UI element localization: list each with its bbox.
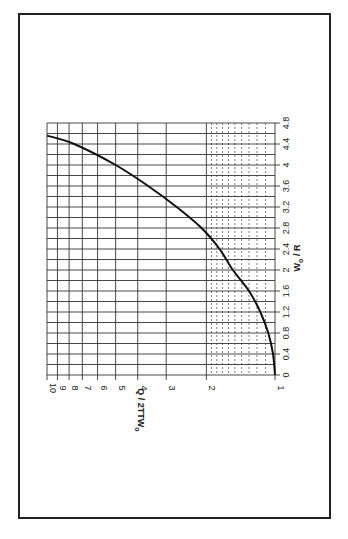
chart: 00.40.81.21.622.42.83.23.644.44.81234567… [0, 0, 348, 539]
grid [47, 123, 275, 375]
x-tick-label: 2.8 [281, 222, 291, 235]
y-tick-label: 9 [58, 385, 68, 390]
x-tick-label: 2.4 [281, 243, 291, 256]
x-tick-label: 0.4 [281, 348, 291, 361]
x-tick-label: 0 [281, 372, 291, 377]
y-tick-label: 10 [48, 383, 58, 393]
x-tick-label: 4 [281, 162, 291, 167]
series-curve [47, 136, 275, 375]
x-tick-label: 4.4 [281, 138, 291, 151]
ticks: 00.40.81.21.622.42.83.23.644.44.81234567… [47, 117, 291, 393]
y-tick-label: 5 [117, 385, 127, 390]
y-tick-label: 7 [83, 385, 93, 390]
curve-layer [47, 136, 275, 375]
y-tick-label: 6 [99, 385, 109, 390]
y-tick-label: 2 [207, 385, 217, 390]
y-axis-title: Q / 2TTWo [134, 388, 146, 431]
x-tick-label: 3.2 [281, 201, 291, 214]
x-tick-label: 4.8 [281, 117, 291, 130]
x-tick-label: 0.8 [281, 327, 291, 340]
x-tick-label: 1.2 [281, 306, 291, 319]
y-tick-label: 8 [70, 385, 80, 390]
y-tick-label: 3 [167, 385, 177, 390]
x-tick-label: 1.6 [281, 285, 291, 298]
x-axis-title: Wo / R [292, 244, 304, 271]
x-tick-label: 2 [281, 267, 291, 272]
y-tick-label: 1 [276, 385, 286, 390]
labels: Wo / R Q / 2TTWo [134, 244, 304, 432]
x-tick-label: 3.6 [281, 180, 291, 193]
